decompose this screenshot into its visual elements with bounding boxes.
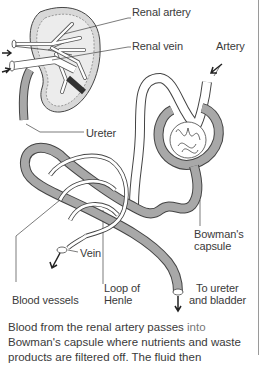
- kidney-illustration: [2, 7, 100, 120]
- label-loop-of-henle-2: Henle: [104, 294, 132, 306]
- label-to-ureter-2: and bladder: [189, 294, 246, 306]
- caption-line1b: into: [187, 321, 206, 333]
- label-bowmans-capsule-2: capsule: [194, 240, 231, 252]
- label-renal-artery: Renal artery: [132, 6, 191, 18]
- label-renal-vein: Renal vein: [132, 40, 183, 52]
- label-to-ureter-1: To ureter: [196, 282, 239, 294]
- label-artery: Artery: [216, 40, 245, 52]
- label-loop-of-henle-1: Loop of: [104, 282, 140, 294]
- caption-text: Blood from the renal artery passes into …: [8, 320, 258, 365]
- label-blood-vessels: Blood vessels: [12, 294, 79, 306]
- caption-line1a: Blood from the renal artery passes: [8, 321, 187, 333]
- label-bowmans-capsule-1: Bowman's: [194, 228, 244, 240]
- label-ureter: Ureter: [86, 127, 116, 139]
- label-vein: Vein: [80, 247, 101, 259]
- caption-line2: Bowman's capsule where nutrients and was…: [8, 336, 241, 348]
- caption-line3: products are filtered off. The fluid the…: [8, 351, 201, 363]
